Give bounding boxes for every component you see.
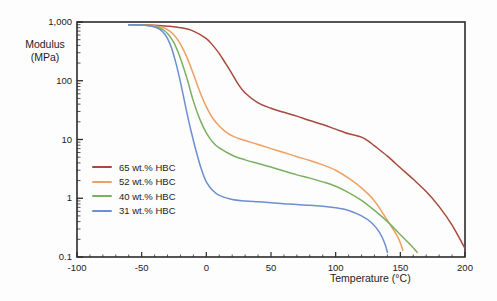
axis-ticks bbox=[77, 22, 465, 257]
x-tick-label: 100 bbox=[311, 262, 361, 273]
x-tick-label: 200 bbox=[440, 262, 490, 273]
y-axis-title: Modulus (MPa) bbox=[14, 38, 76, 64]
legend-swatch-icon bbox=[92, 210, 112, 212]
legend-item: 65 wt.% HBC bbox=[92, 160, 212, 175]
legend-label: 52 wt.% HBC bbox=[119, 176, 176, 187]
legend-label: 40 wt.% HBC bbox=[119, 191, 176, 202]
curve-31-wt-hbc bbox=[129, 25, 388, 253]
x-tick-label: 50 bbox=[246, 262, 296, 273]
x-tick-label: -100 bbox=[52, 262, 102, 273]
y-tick-label: 100 bbox=[28, 75, 72, 86]
y-tick-label: 0.1 bbox=[28, 251, 72, 262]
curve-40-wt-hbc bbox=[129, 25, 417, 253]
legend-swatch-icon bbox=[92, 166, 112, 168]
legend-item: 40 wt.% HBC bbox=[92, 189, 212, 204]
data-curves bbox=[129, 25, 465, 253]
y-tick-label: 1,000 bbox=[28, 16, 72, 27]
x-tick-label: 150 bbox=[375, 262, 425, 273]
y-tick-label: 10 bbox=[28, 134, 72, 145]
y-axis-title-line2: (MPa) bbox=[14, 51, 76, 64]
legend: 65 wt.% HBC52 wt.% HBC40 wt.% HBC31 wt.%… bbox=[92, 160, 212, 218]
legend-label: 31 wt.% HBC bbox=[119, 205, 176, 216]
legend-swatch-icon bbox=[92, 181, 112, 183]
x-axis-title: Temperature (°C) bbox=[330, 272, 411, 285]
legend-swatch-icon bbox=[92, 195, 112, 197]
axes-frame bbox=[77, 22, 465, 257]
legend-label: 65 wt.% HBC bbox=[119, 162, 176, 173]
legend-item: 52 wt.% HBC bbox=[92, 175, 212, 190]
legend-item: 31 wt.% HBC bbox=[92, 204, 212, 219]
x-tick-label: 0 bbox=[181, 262, 231, 273]
y-tick-label: 1 bbox=[28, 192, 72, 203]
y-axis-title-line1: Modulus bbox=[14, 38, 76, 51]
x-tick-label: -50 bbox=[117, 262, 167, 273]
dma-modulus-chart: Modulus (MPa) Temperature (°C) 0.1110100… bbox=[0, 0, 497, 301]
